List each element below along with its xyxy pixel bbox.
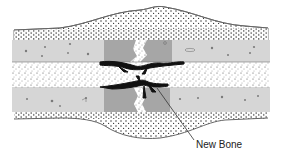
cortex-lower-fragment-left [104, 88, 138, 112]
fracture-healing-diagram: New Bone [0, 0, 283, 155]
callus-top-outer-band [14, 28, 268, 40]
new-bone-label: New Bone [196, 139, 243, 150]
cortex-upper-fragment-left [104, 40, 138, 62]
